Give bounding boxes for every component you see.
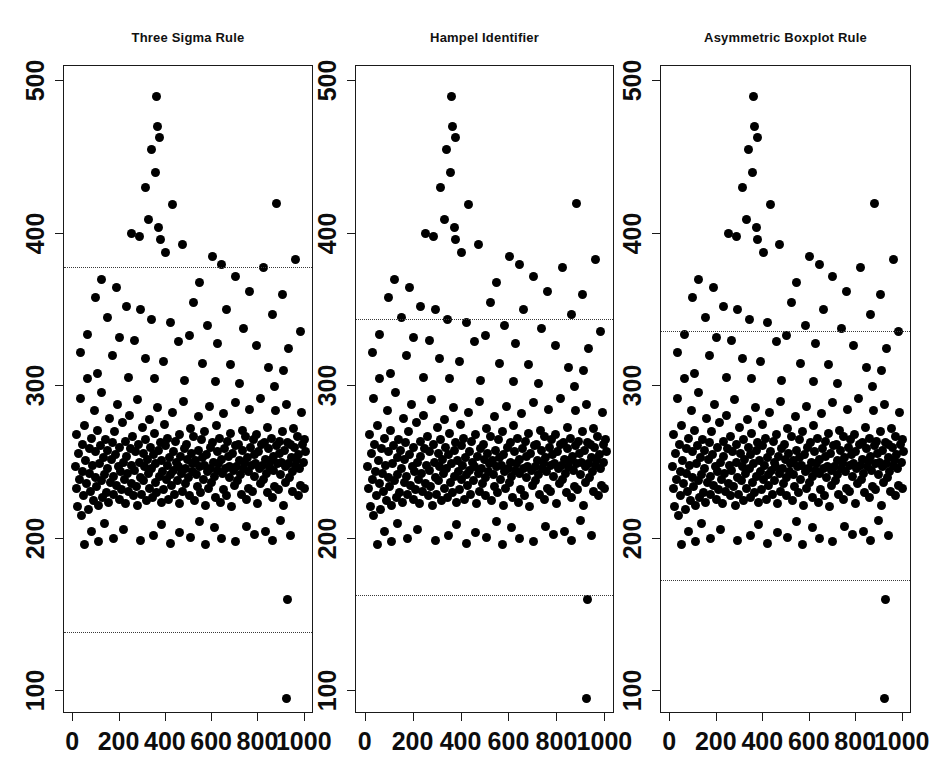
data-point <box>845 487 854 496</box>
data-point <box>833 379 842 388</box>
y-axis-tick-label: 200 <box>618 506 647 570</box>
data-point <box>862 363 871 372</box>
y-axis-tick-label: 100 <box>618 659 647 723</box>
data-point <box>772 430 781 439</box>
data-point <box>690 369 699 378</box>
data-point <box>710 400 719 409</box>
data-point <box>670 502 679 511</box>
data-point <box>828 537 837 546</box>
y-axis-tick-label: 400 <box>618 201 647 265</box>
data-point <box>842 287 851 296</box>
data-point <box>702 414 711 423</box>
data-point <box>705 351 714 360</box>
data-point <box>825 502 834 511</box>
x-axis-tick <box>716 713 717 721</box>
data-point <box>848 530 857 539</box>
data-point <box>809 377 818 386</box>
data-point <box>824 429 833 438</box>
data-point <box>854 394 863 403</box>
data-point <box>898 435 907 444</box>
data-point <box>859 527 868 536</box>
data-point <box>773 499 782 508</box>
data-point <box>677 421 686 430</box>
data-point <box>716 525 725 534</box>
data-point <box>776 397 785 406</box>
data-point <box>765 408 774 417</box>
y-axis-tick-label: 500 <box>618 49 647 113</box>
plot-area <box>660 65 911 713</box>
data-point <box>733 305 742 314</box>
data-point <box>876 427 885 436</box>
data-point <box>792 278 801 287</box>
x-axis-tick <box>902 713 903 721</box>
data-point <box>766 200 775 209</box>
y-axis-tick <box>652 80 660 81</box>
data-point <box>882 344 891 353</box>
data-point <box>681 505 690 514</box>
data-point <box>783 533 792 542</box>
x-axis-tick-label: 200 <box>695 727 737 756</box>
data-point <box>828 272 837 281</box>
x-axis-tick-label: 600 <box>788 727 830 756</box>
data-point <box>897 458 906 467</box>
data-point <box>707 427 716 436</box>
threshold-line-lower <box>661 580 910 581</box>
data-point <box>751 403 760 412</box>
data-point <box>796 359 805 368</box>
data-point <box>840 522 849 531</box>
data-point <box>824 360 833 369</box>
data-point <box>719 452 728 461</box>
data-point <box>843 405 852 414</box>
x-axis-tick <box>855 713 856 721</box>
data-point <box>747 374 756 383</box>
data-point <box>898 484 907 493</box>
data-point <box>775 240 784 249</box>
data-point <box>709 283 718 292</box>
data-point <box>808 523 817 532</box>
data-point <box>732 232 741 241</box>
x-axis-tick-label: 0 <box>662 727 676 756</box>
data-point <box>712 333 721 342</box>
data-point <box>772 337 781 346</box>
data-point <box>868 382 877 391</box>
data-point <box>861 423 870 432</box>
data-point <box>697 519 706 528</box>
data-point <box>753 235 762 244</box>
data-point <box>849 341 858 350</box>
data-point <box>899 447 908 456</box>
data-point <box>742 215 751 224</box>
data-point <box>817 409 826 418</box>
data-point <box>687 406 696 415</box>
data-point <box>680 374 689 383</box>
data-point <box>730 395 739 404</box>
y-axis-tick-label: 300 <box>618 354 647 418</box>
data-point <box>791 412 800 421</box>
data-point <box>865 493 874 502</box>
data-point <box>744 145 753 154</box>
data-point <box>876 290 885 299</box>
data-point <box>851 499 860 508</box>
data-point <box>869 406 878 415</box>
data-point <box>694 388 703 397</box>
data-point <box>694 275 703 284</box>
data-point <box>877 501 886 510</box>
data-point <box>798 540 807 549</box>
data-point <box>777 376 786 385</box>
data-point <box>748 168 757 177</box>
data-point <box>691 537 700 546</box>
data-point <box>809 421 818 430</box>
data-point <box>877 366 886 375</box>
data-point <box>799 501 808 510</box>
data-point <box>802 402 811 411</box>
data-point <box>871 485 880 494</box>
data-point <box>673 348 682 357</box>
data-point <box>690 426 699 435</box>
data-point <box>788 496 797 505</box>
data-point <box>866 310 875 319</box>
x-axis-tick <box>762 713 763 721</box>
data-point <box>753 133 762 142</box>
data-point <box>850 430 859 439</box>
x-axis-tick-label: 1000 <box>874 727 930 756</box>
panel-asymmetric-boxplot-rule: Asymmetric Boxplot Rule10020030040050002… <box>0 0 946 773</box>
data-point <box>880 400 889 409</box>
